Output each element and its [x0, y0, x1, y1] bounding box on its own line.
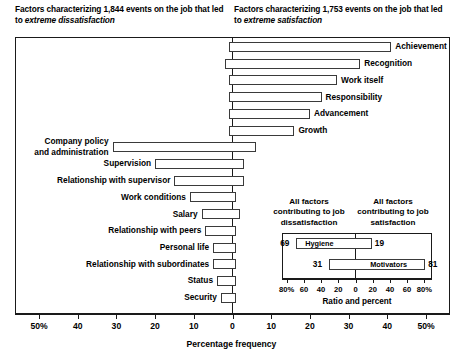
bar-row: Work itself — [0, 72, 463, 89]
bar-work-conditions — [190, 192, 236, 202]
inset-value-right-hygiene: 19 — [375, 238, 384, 249]
bar-label-company-policy-and-administration: Company policyand administration — [23, 136, 109, 157]
bar-row: Supervision — [0, 156, 463, 173]
x-tick — [78, 314, 79, 319]
inset-tick — [338, 279, 339, 283]
bar-label-personal-life: Personal life — [160, 242, 209, 253]
x-tick-label: 30 — [329, 321, 369, 331]
bar-label-security: Security — [184, 292, 217, 303]
x-tick-label: 20 — [290, 321, 330, 331]
inset-bar-label-hygiene: Hygiene — [305, 238, 333, 249]
x-tick — [387, 314, 388, 319]
x-tick — [194, 314, 195, 319]
bar-row: Achievement — [0, 39, 463, 56]
x-tick — [155, 314, 156, 319]
x-tick-label: 10 — [251, 321, 291, 331]
x-tick-label: 30 — [96, 321, 136, 331]
x-tick — [426, 314, 427, 319]
header-satisfaction-emphasis: extreme satisfaction — [244, 15, 322, 25]
bar-company-policy-and-administration — [113, 142, 256, 152]
bar-supervision — [155, 159, 244, 169]
x-tick — [349, 314, 350, 319]
inset-tick — [287, 279, 288, 283]
inset-tick — [407, 279, 408, 283]
bar-relationship-with-subordinates — [213, 259, 236, 269]
inset-tick-label: 80% — [409, 285, 439, 294]
bar-label-work-conditions: Work conditions — [121, 192, 186, 203]
bar-relationship-with-supervisor — [174, 176, 244, 186]
inset-header-dissatisfaction: All factors contributing to job dissatis… — [272, 197, 346, 228]
bar-status — [217, 276, 236, 286]
bar-row: Advancement — [0, 106, 463, 123]
inset-bar-label-motivators: Motivators — [370, 259, 407, 270]
x-tick — [271, 314, 272, 319]
bar-row: Recognition — [0, 56, 463, 73]
bar-label-relationship-with-subordinates: Relationship with subordinates — [86, 259, 209, 270]
x-tick — [116, 314, 117, 319]
bar-label-growth: Growth — [298, 125, 327, 136]
inset-value-left-motivators: 31 — [313, 259, 322, 270]
bar-row: Company policyand administration — [0, 139, 463, 156]
inset-tick — [390, 279, 391, 283]
x-tick-label: 50% — [406, 321, 446, 331]
header-dissatisfaction-emphasis: extreme dissatisfaction — [25, 15, 115, 25]
bar-row: Responsibility — [0, 89, 463, 106]
inset-axis-title: Ratio and percent — [282, 297, 432, 306]
x-tick — [39, 314, 40, 319]
x-tick-label: 40 — [367, 321, 407, 331]
bar-label-status: Status — [188, 275, 213, 286]
bar-salary — [202, 209, 241, 219]
inset-tick — [424, 279, 425, 283]
bar-row: Relationship with supervisor — [0, 173, 463, 190]
x-tick-label: 40 — [58, 321, 98, 331]
bar-label-responsibility: Responsibility — [326, 92, 383, 103]
bar-label-supervision: Supervision — [104, 158, 152, 169]
bar-personal-life — [213, 243, 236, 253]
header-satisfaction: Factors characterizing 1,753 events on t… — [234, 4, 452, 26]
bar-relationship-with-peers — [205, 226, 236, 236]
inset-value-left-hygiene: 69 — [280, 238, 289, 249]
bar-work-itself — [229, 75, 337, 85]
bar-security — [221, 293, 236, 303]
x-tick — [233, 314, 234, 319]
bar-label-advancement: Advancement — [314, 108, 368, 119]
bar-label-salary: Salary — [173, 209, 198, 220]
x-tick-label: 50% — [19, 321, 59, 331]
x-tick-label: 20 — [135, 321, 175, 331]
inset-tick — [373, 279, 374, 283]
bar-achievement — [229, 42, 392, 52]
x-tick-label: 10 — [174, 321, 214, 331]
bar-responsibility — [229, 92, 322, 102]
bar-label-relationship-with-supervisor: Relationship with supervisor — [57, 175, 170, 186]
inset-tick — [321, 279, 322, 283]
bar-label-achievement: Achievement — [395, 41, 447, 52]
inset-header-satisfaction: All factors contributing to job satisfac… — [356, 197, 430, 228]
bar-label-recognition: Recognition — [364, 58, 412, 69]
x-tick — [310, 314, 311, 319]
inset-value-right-motivators: 81 — [428, 259, 437, 270]
bar-growth — [229, 126, 295, 136]
bar-label-work-itself: Work itself — [341, 75, 383, 86]
inset-tick — [304, 279, 305, 283]
bar-label-relationship-with-peers: Relationship with peers — [108, 225, 201, 236]
x-tick-label: 0 — [213, 321, 253, 331]
bar-advancement — [229, 109, 310, 119]
chart-root: Factors characterizing 1,844 events on t… — [0, 0, 463, 364]
inset-tick — [356, 279, 357, 283]
bar-recognition — [225, 59, 360, 69]
header-dissatisfaction: Factors characterizing 1,844 events on t… — [15, 4, 230, 26]
x-axis-title: Percentage frequency — [0, 339, 463, 349]
